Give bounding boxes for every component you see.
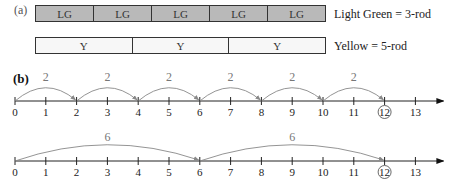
tick-label: 5	[166, 106, 172, 118]
tick-label: 2	[74, 106, 80, 118]
tick-label: 13	[410, 106, 422, 118]
number-line-jumps-of-6: 01234567891011121366	[12, 130, 443, 179]
tick-label: 9	[289, 106, 295, 118]
number-lines-diagram: 012345678910111213222222 012345678910111…	[0, 0, 451, 188]
tick-label: 0	[12, 106, 18, 118]
tick-label: 13	[410, 166, 422, 178]
tick-label: 7	[228, 106, 234, 118]
tick-label: 8	[259, 166, 265, 178]
tick-label: 6	[197, 106, 203, 118]
tick-label: 8	[259, 106, 265, 118]
tick-label: 11	[349, 166, 360, 178]
tick-label: 10	[318, 106, 330, 118]
tick-label: 3	[105, 166, 111, 178]
number-line-jumps-of-2: 012345678910111213222222	[12, 70, 443, 119]
jump-label: 2	[289, 70, 295, 84]
jump-label: 6	[289, 130, 295, 144]
jump-label: 2	[351, 70, 357, 84]
tick-label: 3	[105, 106, 111, 118]
tick-label: 0	[12, 166, 18, 178]
tick-label: 1	[43, 166, 49, 178]
tick-label: 12	[379, 106, 390, 118]
tick-label: 12	[379, 166, 390, 178]
jump-label: 2	[43, 70, 49, 84]
jump-label: 2	[166, 70, 172, 84]
tick-label: 5	[166, 166, 172, 178]
jump-label: 2	[228, 70, 234, 84]
jump-arc	[77, 88, 138, 101]
tick-label: 2	[74, 166, 80, 178]
tick-label: 4	[135, 166, 141, 178]
jump-label: 6	[104, 130, 110, 144]
tick-label: 7	[228, 166, 234, 178]
jump-label: 2	[104, 70, 110, 84]
tick-label: 10	[318, 166, 330, 178]
tick-label: 9	[289, 166, 295, 178]
tick-label: 11	[349, 106, 360, 118]
tick-label: 6	[197, 166, 203, 178]
tick-label: 4	[135, 106, 141, 118]
tick-label: 1	[43, 106, 49, 118]
